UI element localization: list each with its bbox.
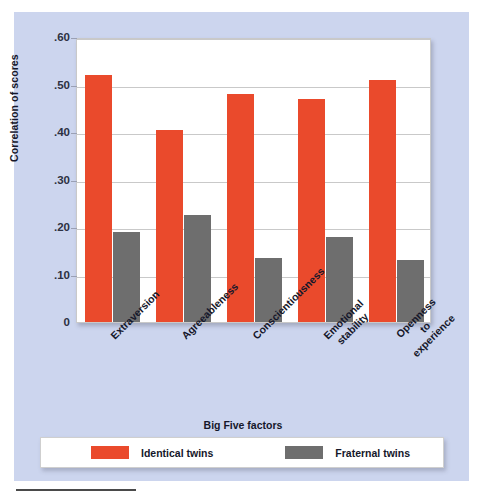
bar-fraternal-1 — [184, 215, 211, 322]
x-axis-title: Big Five factors — [0, 419, 486, 431]
bar-identical-3 — [298, 99, 325, 322]
gridline — [77, 39, 430, 40]
bar-identical-0 — [85, 75, 112, 322]
legend-item-fraternal-twins: Fraternal twins — [285, 446, 410, 459]
bar-fraternal-3 — [326, 237, 353, 323]
bar-fraternal-4 — [397, 260, 424, 322]
y-axis-title: Correlation of scores — [8, 54, 20, 162]
chart-legend: Identical twins Fraternal twins — [40, 437, 444, 468]
figure-panel: Correlation of scores — [14, 12, 469, 481]
legend-label-identical: Identical twins — [141, 447, 213, 459]
page-rule-divider — [16, 489, 136, 491]
bar-identical-1 — [156, 130, 183, 322]
plot-area-wrapper — [76, 38, 431, 323]
bar-fraternal-2 — [255, 258, 282, 322]
legend-swatch-fraternal-icon — [285, 446, 323, 459]
legend-swatch-identical-icon — [91, 446, 129, 459]
bar-identical-4 — [369, 80, 396, 322]
bar-fraternal-0 — [113, 232, 140, 322]
bar-identical-2 — [227, 94, 254, 322]
legend-label-fraternal: Fraternal twins — [335, 447, 410, 459]
legend-item-identical-twins: Identical twins — [91, 446, 213, 459]
plot-area — [76, 38, 431, 323]
